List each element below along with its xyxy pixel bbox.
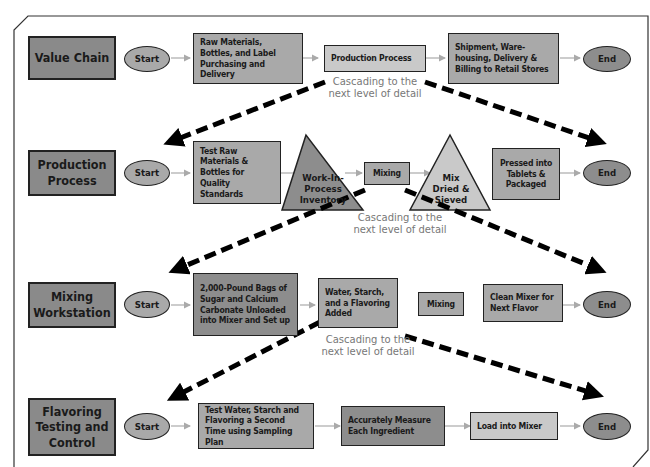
step-unload-bags: 2,000-Pound Bags of Sugar and Calcium Ca…: [193, 273, 298, 336]
start-node: Start: [124, 413, 170, 440]
step-load-mixer: Load into Mixer: [470, 412, 558, 440]
step-shipment: Shipment, Ware-housing, Delivery & Billi…: [448, 33, 559, 84]
row-label-value-chain: Value Chain: [28, 36, 116, 80]
step-clean-mixer: Clean Mixer for Next Flavor: [483, 284, 563, 322]
cascade-note: Cascading to the next level of detail: [325, 76, 425, 100]
step-raw-materials: Raw Materials, Bottles, and Label Purcha…: [193, 33, 303, 84]
end-node: End: [583, 413, 631, 440]
end-node: End: [583, 46, 631, 72]
step-mixing: Mixing: [418, 292, 464, 316]
step-test-water-starch: Test Water, Starch and Flavoring a Secon…: [198, 403, 314, 449]
step-pressed-tablets: Pressed into Tablets & Packaged: [492, 148, 560, 200]
step-wip-inventory: Work-In-Process Inventory: [287, 173, 359, 207]
step-mixing: Mixing: [364, 162, 410, 185]
row-label-mixing-workstation: Mixing Workstation: [28, 282, 116, 328]
step-mix-dried-sieved: Mix Dried & Sieved: [430, 173, 472, 207]
step-production-process: Production Process: [324, 45, 426, 72]
row-label-flavoring-testing: Flavoring Testing and Control: [28, 398, 116, 456]
end-node: End: [583, 160, 631, 186]
step-test-raw-materials: Test Raw Materials & Bottles for Quality…: [193, 141, 281, 204]
start-node: Start: [124, 291, 170, 318]
end-node: End: [583, 291, 631, 318]
start-node: Start: [124, 160, 170, 186]
row-label-production-process: Production Process: [28, 150, 116, 196]
cascade-note: Cascading to the next level of detail: [318, 334, 418, 358]
step-measure-ingredient: Accurately Measure Each Ingredient: [341, 406, 445, 446]
cascade-note: Cascading to the next level of detail: [350, 212, 450, 236]
start-node: Start: [124, 46, 170, 72]
step-water-starch: Water, Starch, and a Flavoring Added: [318, 278, 398, 328]
